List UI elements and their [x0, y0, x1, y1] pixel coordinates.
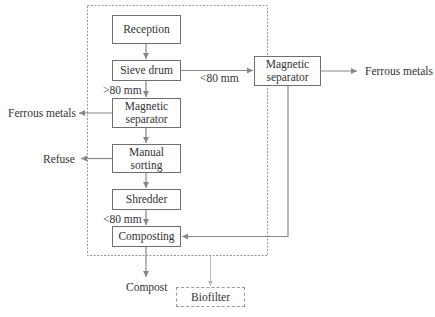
magnetic-separator-right-line1: Magnetic — [266, 58, 309, 71]
ferrous-metals-right-label: Ferrous metals — [365, 65, 433, 78]
ferrous-metals-left-label: Ferrous metals — [8, 107, 76, 120]
compost-label: Compost — [126, 281, 168, 294]
biofilter-box: Biofilter — [176, 287, 245, 307]
magnetic-separator-left-box: Magnetic separator — [112, 98, 181, 128]
magnetic-separator-left-line1: Magnetic — [125, 100, 168, 113]
manual-sorting-line1: Manual — [129, 146, 164, 159]
reception-label: Reception — [123, 23, 170, 36]
sieve-drum-label: Sieve drum — [120, 64, 173, 77]
sieve-drum-box: Sieve drum — [112, 60, 181, 81]
manual-sorting-box: Manual sorting — [112, 144, 181, 173]
biofilter-label: Biofilter — [191, 291, 230, 304]
lt80-right-label: <80 mm — [200, 72, 239, 85]
refuse-label: Refuse — [43, 153, 75, 166]
manual-sorting-line2: sorting — [131, 159, 163, 172]
reception-box: Reception — [112, 15, 181, 44]
composting-label: Composting — [118, 230, 174, 243]
magnetic-separator-left-line2: separator — [125, 113, 167, 126]
magnetic-separator-right-box: Magnetic separator — [254, 56, 321, 86]
shredder-box: Shredder — [112, 189, 181, 210]
composting-box: Composting — [112, 226, 181, 247]
gt80-label: >80 mm — [103, 84, 142, 97]
shredder-label: Shredder — [126, 193, 168, 206]
lt80-bottom-label: <80 mm — [103, 213, 142, 226]
magnetic-separator-right-line2: separator — [266, 71, 308, 84]
